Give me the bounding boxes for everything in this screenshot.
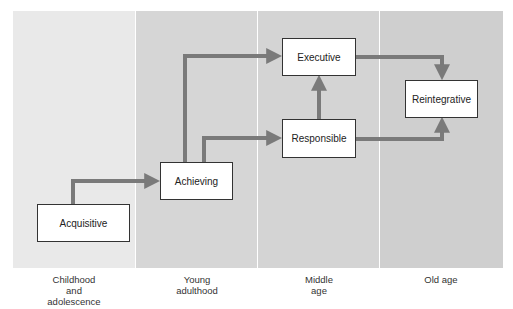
- node-acquisitive: Acquisitive: [37, 204, 130, 242]
- arrow-achieving-responsible: [204, 138, 275, 162]
- label-line: Young: [136, 274, 258, 285]
- label-line: and: [13, 285, 135, 296]
- arrows-layer: [0, 0, 513, 309]
- node-responsible: Responsible: [282, 119, 356, 158]
- node-acquisitive-label: Acquisitive: [60, 218, 108, 229]
- node-achieving: Achieving: [160, 162, 233, 200]
- column-label-middle-age: Middle age: [258, 274, 380, 296]
- arrow-achieving-executive: [185, 56, 275, 162]
- arrow-executive-reintegrative: [355, 57, 442, 73]
- label-line: age: [258, 285, 380, 296]
- column-label-old-age: Old age: [380, 274, 502, 285]
- node-reintegrative: Reintegrative: [405, 80, 478, 118]
- label-line: adulthood: [136, 285, 258, 296]
- column-label-childhood: Childhood and adolescence: [13, 274, 135, 307]
- node-achieving-label: Achieving: [175, 176, 218, 187]
- label-line: adolescence: [13, 296, 135, 307]
- label-line: Old age: [380, 274, 502, 285]
- node-reintegrative-label: Reintegrative: [412, 94, 471, 105]
- arrow-responsible-reintegrative: [355, 124, 442, 139]
- node-executive: Executive: [282, 38, 356, 76]
- label-line: Middle: [258, 274, 380, 285]
- arrow-acquisitive-achieving: [73, 181, 153, 204]
- node-executive-label: Executive: [297, 52, 340, 63]
- label-line: Childhood: [13, 274, 135, 285]
- node-responsible-label: Responsible: [291, 133, 346, 144]
- column-label-young-adulthood: Young adulthood: [136, 274, 258, 296]
